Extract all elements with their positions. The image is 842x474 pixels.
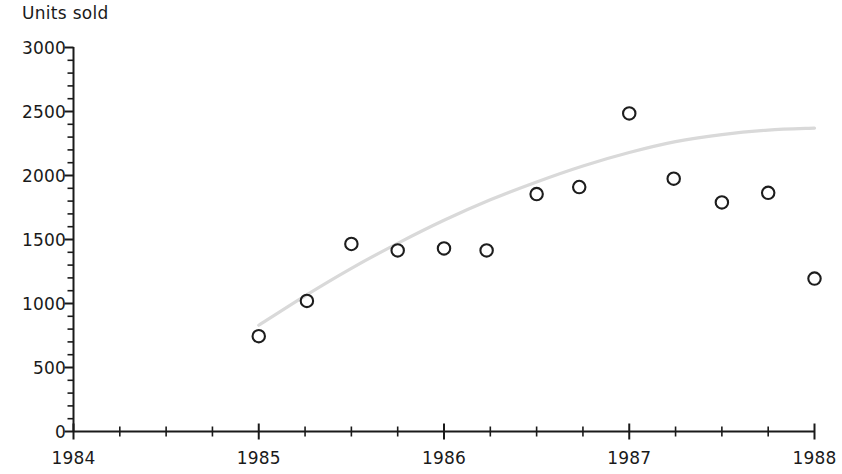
data-point-marker	[623, 107, 635, 119]
data-point-marker	[530, 188, 542, 200]
data-point-marker	[345, 238, 357, 250]
x-tick-label: 1986	[422, 448, 466, 468]
axes-group	[73, 47, 815, 432]
y-axis-ticks	[65, 48, 74, 432]
x-tick-label: 1987	[607, 448, 651, 468]
scatter-chart: Units sold 050010001500200025003000 1984…	[0, 0, 842, 474]
x-tick-label: 1988	[792, 448, 836, 468]
x-tick-label: 1984	[51, 448, 95, 468]
plot-area	[0, 0, 842, 474]
data-point-marker	[253, 330, 265, 342]
data-point-marker	[391, 244, 403, 256]
data-point-marker	[668, 173, 680, 185]
x-tick-label: 1985	[237, 448, 281, 468]
data-markers	[253, 107, 821, 342]
data-point-marker	[573, 181, 585, 193]
data-point-marker	[438, 242, 450, 254]
data-point-marker	[301, 295, 313, 307]
data-point-marker	[716, 196, 728, 208]
data-point-marker	[808, 272, 820, 284]
data-point-marker	[762, 187, 774, 199]
trend-line	[259, 128, 815, 325]
data-point-marker	[480, 244, 492, 256]
